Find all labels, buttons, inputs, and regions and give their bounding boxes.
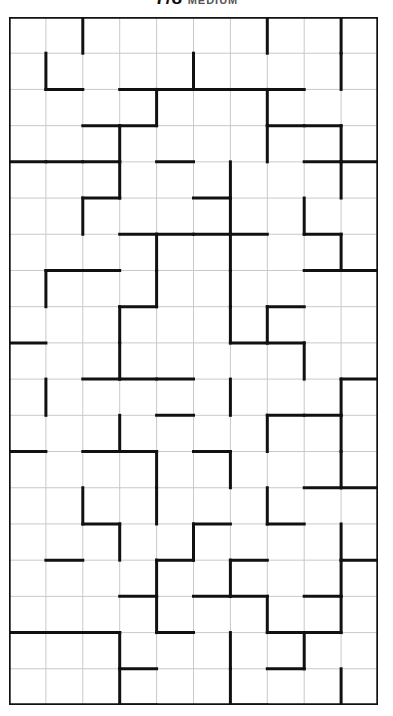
grid-cell[interactable]: [9, 415, 46, 451]
grid-cell[interactable]: [194, 234, 231, 270]
grid-cell[interactable]: [194, 560, 231, 596]
grid-cell[interactable]: [230, 415, 267, 451]
grid-cell[interactable]: [120, 270, 157, 306]
grid-cell[interactable]: [157, 307, 194, 343]
grid-cell[interactable]: [267, 17, 304, 53]
grid-cell[interactable]: [9, 343, 46, 379]
grid-cell[interactable]: [157, 452, 194, 488]
grid-cell[interactable]: [341, 343, 378, 379]
grid-cell[interactable]: [120, 415, 157, 451]
grid-cell[interactable]: [304, 488, 341, 524]
grid-cell[interactable]: [9, 560, 46, 596]
grid-cell[interactable]: [9, 488, 46, 524]
grid-cell[interactable]: [83, 524, 120, 560]
grid-cell[interactable]: [120, 162, 157, 198]
grid-cell[interactable]: [194, 53, 231, 89]
grid-cell[interactable]: [157, 669, 194, 705]
grid-cell[interactable]: [157, 415, 194, 451]
grid-cell[interactable]: [157, 53, 194, 89]
grid-cell[interactable]: [9, 270, 46, 306]
grid-cell[interactable]: [83, 669, 120, 705]
grid-cell[interactable]: [157, 343, 194, 379]
grid-cell[interactable]: [267, 343, 304, 379]
grid-cell[interactable]: [157, 524, 194, 560]
grid-cell[interactable]: [304, 198, 341, 234]
grid-cell[interactable]: [194, 162, 231, 198]
grid-cell[interactable]: [120, 596, 157, 632]
grid-cell[interactable]: [9, 234, 46, 270]
grid-cell[interactable]: [9, 307, 46, 343]
grid-cell[interactable]: [9, 198, 46, 234]
grid-cell[interactable]: [267, 126, 304, 162]
grid-cell[interactable]: [46, 198, 83, 234]
grid-cell[interactable]: [230, 270, 267, 306]
grid-cell[interactable]: [120, 126, 157, 162]
grid-cell[interactable]: [9, 17, 46, 53]
grid-cell[interactable]: [83, 307, 120, 343]
grid-cell[interactable]: [120, 307, 157, 343]
grid-cell[interactable]: [341, 452, 378, 488]
grid-cell[interactable]: [304, 633, 341, 669]
grid-cell[interactable]: [120, 198, 157, 234]
grid-cell[interactable]: [46, 596, 83, 632]
grid-cell[interactable]: [267, 560, 304, 596]
grid-cell[interactable]: [304, 452, 341, 488]
grid-cell[interactable]: [230, 669, 267, 705]
grid-cell[interactable]: [194, 17, 231, 53]
grid-cell[interactable]: [341, 524, 378, 560]
grid-cell[interactable]: [46, 488, 83, 524]
grid-cell[interactable]: [341, 596, 378, 632]
grid-cell[interactable]: [267, 162, 304, 198]
grid-cell[interactable]: [83, 270, 120, 306]
grid-cell[interactable]: [194, 89, 231, 125]
grid-cell[interactable]: [9, 596, 46, 632]
grid-cell[interactable]: [230, 198, 267, 234]
grid-cell[interactable]: [9, 89, 46, 125]
grid-cell[interactable]: [267, 452, 304, 488]
grid-cell[interactable]: [304, 89, 341, 125]
grid-cell[interactable]: [120, 524, 157, 560]
grid-cell[interactable]: [157, 162, 194, 198]
grid-cell[interactable]: [230, 162, 267, 198]
grid-cell[interactable]: [341, 415, 378, 451]
grid-cell[interactable]: [267, 415, 304, 451]
grid-cell[interactable]: [83, 633, 120, 669]
grid-cell[interactable]: [83, 89, 120, 125]
grid-cell[interactable]: [157, 270, 194, 306]
grid-cell[interactable]: [230, 452, 267, 488]
grid-cell[interactable]: [304, 162, 341, 198]
grid-cell[interactable]: [194, 596, 231, 632]
grid-cell[interactable]: [230, 596, 267, 632]
grid-cell[interactable]: [46, 524, 83, 560]
grid-cell[interactable]: [267, 234, 304, 270]
grid-cell[interactable]: [230, 53, 267, 89]
grid-cell[interactable]: [120, 53, 157, 89]
grid-cell[interactable]: [194, 488, 231, 524]
grid-cell[interactable]: [83, 415, 120, 451]
puzzle-grid[interactable]: [9, 17, 378, 705]
grid-cell[interactable]: [341, 89, 378, 125]
grid-cell[interactable]: [341, 198, 378, 234]
grid-cell[interactable]: [46, 234, 83, 270]
grid-cell[interactable]: [46, 162, 83, 198]
grid-cell[interactable]: [194, 343, 231, 379]
grid-cell[interactable]: [83, 560, 120, 596]
grid-cell[interactable]: [83, 126, 120, 162]
grid-cell[interactable]: [157, 488, 194, 524]
grid-cell[interactable]: [9, 633, 46, 669]
grid-cell[interactable]: [341, 560, 378, 596]
grid-cell[interactable]: [46, 17, 83, 53]
grid-cell[interactable]: [267, 488, 304, 524]
grid-cell[interactable]: [157, 198, 194, 234]
grid-cell[interactable]: [83, 343, 120, 379]
grid-cell[interactable]: [230, 17, 267, 53]
grid-cell[interactable]: [267, 89, 304, 125]
grid-cell[interactable]: [46, 53, 83, 89]
grid-cell[interactable]: [46, 307, 83, 343]
grid-cell[interactable]: [120, 560, 157, 596]
grid-cell[interactable]: [157, 379, 194, 415]
grid-cell[interactable]: [46, 669, 83, 705]
grid-cell[interactable]: [157, 560, 194, 596]
grid-cell[interactable]: [46, 633, 83, 669]
grid-cell[interactable]: [341, 669, 378, 705]
